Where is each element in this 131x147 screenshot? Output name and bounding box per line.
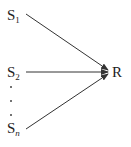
ellipsis-dot xyxy=(10,114,12,116)
edge-s1-r xyxy=(26,14,108,70)
node-s1: S1 xyxy=(7,8,20,25)
node-r: R xyxy=(112,65,122,80)
ellipsis-dot xyxy=(10,86,12,88)
node-s1-sub: 1 xyxy=(15,15,20,25)
convergence-diagram: S1 S2 Sn R xyxy=(0,0,131,147)
edge-sn-r xyxy=(26,74,108,129)
node-s2: S2 xyxy=(7,65,20,82)
node-sn-sub: n xyxy=(15,128,20,138)
node-s2-sub: 2 xyxy=(15,72,20,82)
node-sn: Sn xyxy=(7,121,20,138)
ellipsis-dot xyxy=(10,100,12,102)
